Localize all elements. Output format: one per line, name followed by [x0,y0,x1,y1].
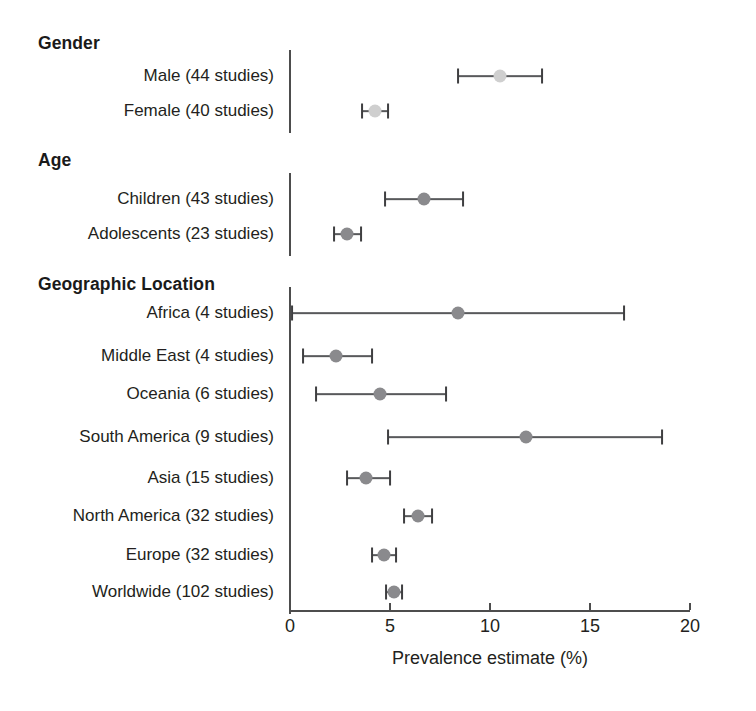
ci-cap-low [315,387,317,402]
x-tick-label: 10 [480,616,500,637]
ci-cap-high [661,430,663,445]
ci-cap-low [346,471,348,486]
group-title-gender: Gender [38,33,100,54]
ci-cap-low [302,349,304,364]
ci-cap-high [431,509,433,524]
group-title-geographic-location: Geographic Location [38,274,215,295]
ci-cap-low [361,104,363,119]
x-tick-label: 20 [680,616,700,637]
x-tick-label: 5 [385,616,395,637]
x-tick-mark [589,603,591,610]
axis-spine-2 [289,287,291,614]
row-label: Africa (4 studies) [0,303,282,323]
ci-cap-high [541,69,543,84]
ci-cap-high [445,387,447,402]
x-axis-line [290,610,690,612]
x-axis-title: Prevalence estimate (%) [392,648,588,669]
x-tick-mark [289,603,291,610]
ci-cap-high [462,192,464,207]
ci-cap-low [333,227,335,242]
row-label: Female (40 studies) [0,101,282,121]
estimate-point[interactable] [388,586,401,599]
x-tick-mark [489,603,491,610]
row-label: Children (43 studies) [0,189,282,209]
x-tick-label: 0 [285,616,295,637]
ci-cap-high [623,306,625,321]
estimate-point[interactable] [520,431,533,444]
estimate-point[interactable] [341,228,354,241]
row-label: Middle East (4 studies) [0,346,282,366]
group-title-age: Age [38,150,71,171]
ci-cap-low [371,548,373,563]
ci-cap-high [389,471,391,486]
axis-spine-1 [289,173,291,256]
row-label: Oceania (6 studies) [0,384,282,404]
ci-cap-low [457,69,459,84]
estimate-point[interactable] [418,193,431,206]
x-tick-label: 15 [580,616,600,637]
estimate-point[interactable] [378,549,391,562]
ci-cap-low [403,509,405,524]
ci-cap-high [395,548,397,563]
ci-cap-high [401,585,403,600]
ci-cap-high [360,227,362,242]
ci-cap-low [384,192,386,207]
x-tick-mark [689,603,691,610]
row-label: South America (9 studies) [0,427,282,447]
estimate-point[interactable] [374,388,387,401]
x-tick-mark [389,603,391,610]
estimate-point[interactable] [412,510,425,523]
row-label: Male (44 studies) [0,66,282,86]
estimate-point[interactable] [369,105,382,118]
row-label: Asia (15 studies) [0,468,282,488]
estimate-point[interactable] [494,70,507,83]
forest-plot: GenderMale (44 studies)Female (40 studie… [0,0,756,711]
estimate-point[interactable] [452,307,465,320]
ci-cap-high [371,349,373,364]
ci-cap-low [291,306,293,321]
ci-cap-high [387,104,389,119]
axis-spine-0 [289,50,291,133]
estimate-point[interactable] [360,472,373,485]
estimate-point[interactable] [330,350,343,363]
row-label: North America (32 studies) [0,506,282,526]
row-label: Worldwide (102 studies) [0,582,282,602]
row-label: Adolescents (23 studies) [0,224,282,244]
row-label: Europe (32 studies) [0,545,282,565]
ci-cap-low [387,430,389,445]
